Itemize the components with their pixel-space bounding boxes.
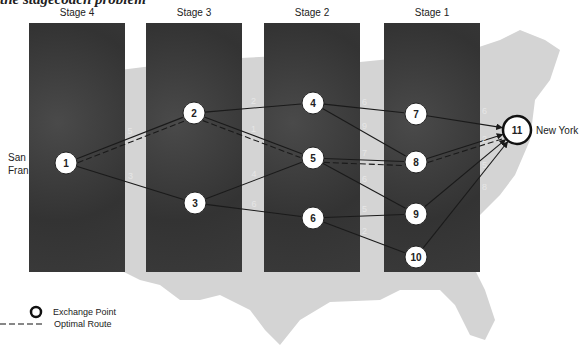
origin-city-label: San Fran — [8, 151, 29, 177]
network-graph: 5321466976526258 1234567891011 — [0, 0, 582, 348]
node-5: 5 — [302, 147, 324, 169]
svg-text:11: 11 — [512, 125, 523, 136]
node-3: 3 — [184, 192, 206, 214]
legend-exchange-point: Exchange Point — [29, 305, 116, 319]
optimal-route-icon — [0, 319, 46, 329]
origin-line-1: San — [8, 151, 29, 164]
node-8: 8 — [405, 151, 427, 173]
edge-weight-4-7: 6 — [362, 97, 367, 107]
svg-text:2: 2 — [191, 108, 197, 119]
edge-weight-5-9: 6 — [362, 174, 367, 184]
edge-10-11 — [423, 142, 508, 249]
edge-weight-7-11: 6 — [482, 106, 487, 116]
node-10: 10 — [405, 246, 427, 268]
svg-text:8: 8 — [413, 157, 419, 168]
svg-text:9: 9 — [413, 209, 419, 220]
svg-text:1: 1 — [63, 158, 69, 169]
node-4: 4 — [302, 92, 324, 114]
edge-weight-10-11: 8 — [482, 182, 487, 192]
edge-8-11 — [426, 135, 502, 159]
node-2: 2 — [183, 102, 205, 124]
edge-weight-3-5: 4 — [251, 169, 256, 179]
edge-weight-5-8: 7 — [362, 148, 367, 158]
destination-city-label: New York — [536, 124, 578, 137]
edge-weight-2-4: 2 — [251, 96, 256, 106]
edge-weight-8-11: 2 — [482, 134, 487, 144]
legend-optimal-route: Optimal Route — [0, 319, 112, 329]
edge-1-2 — [76, 117, 183, 159]
origin-line-2: Fran — [8, 164, 29, 177]
edges-group: 5321466976526258 — [76, 96, 507, 253]
nodes-group: 1234567891011 — [55, 92, 531, 268]
node-7: 7 — [405, 103, 427, 125]
edge-5-9 — [323, 163, 406, 208]
node-11: 11 — [503, 116, 531, 144]
edge-weight-1-2: 5 — [127, 126, 132, 136]
svg-text:3: 3 — [192, 198, 198, 209]
edge-9-11 — [424, 140, 505, 207]
edge-5-8 — [324, 158, 404, 161]
svg-text:4: 4 — [310, 98, 316, 109]
exchange-point-icon — [29, 305, 43, 319]
node-9: 9 — [405, 203, 427, 225]
edge-7-11 — [427, 116, 502, 128]
edge-weight-3-6: 6 — [251, 199, 256, 209]
svg-text:7: 7 — [413, 109, 419, 120]
edge-weight-6-10: 2 — [362, 226, 367, 236]
edge-6-9 — [324, 214, 404, 217]
node-6: 6 — [302, 207, 324, 229]
svg-text:5: 5 — [310, 153, 316, 164]
edge-weight-1-3: 3 — [128, 171, 133, 181]
legend-exchange-label: Exchange Point — [53, 307, 116, 317]
edge-weight-4-8: 9 — [362, 121, 367, 131]
edge-weight-6-9: 5 — [362, 204, 367, 214]
legend-optimal-label: Optimal Route — [54, 319, 112, 329]
edge-2-5 — [204, 117, 301, 154]
optimal-route-5-8 — [324, 162, 404, 165]
svg-text:10: 10 — [410, 252, 422, 263]
edge-weight-2-5: 1 — [251, 124, 256, 134]
node-1: 1 — [55, 152, 77, 174]
svg-text:6: 6 — [310, 213, 316, 224]
